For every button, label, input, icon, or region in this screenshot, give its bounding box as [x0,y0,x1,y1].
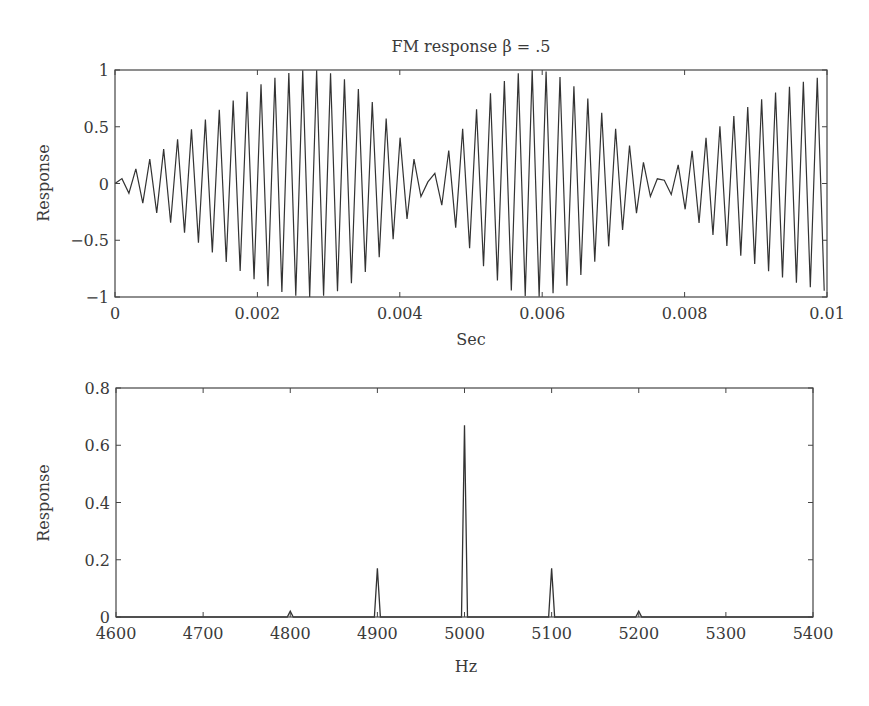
x-tick-label: 0 [110,304,120,323]
x-tick-label: 0.002 [234,304,280,323]
y-tick-label: 0.8 [85,379,110,398]
spectrum-y-axis: 0.80.60.40.20 [85,379,813,627]
x-tick-label: 0.008 [662,304,708,323]
time-plot-title: FM response β = .5 [392,37,551,56]
time-y-axis: 10.50−0.5−1 [70,61,827,307]
y-tick-label: −0.5 [70,231,109,250]
spectrum-plot: 460047004800490050005100520053005400 0.8… [34,379,833,676]
spectrum-series-line [116,425,813,617]
x-tick-label: 4900 [357,624,398,643]
y-tick-label: 0.2 [85,551,110,570]
time-plot: FM response β = .5 00.0020.0040.0060.008… [34,37,845,349]
time-y-axis-label: Response [34,144,53,222]
x-tick-label: 0.004 [377,304,423,323]
x-tick-label: 0.01 [809,304,845,323]
y-tick-label: 0.6 [85,436,110,455]
x-tick-label: 5000 [444,624,485,643]
spectrum-plot-frame [116,388,813,617]
time-series-line [115,70,824,297]
spectrum-y-axis-label: Response [34,464,53,542]
x-tick-label: 4700 [183,624,224,643]
x-tick-label: 5300 [706,624,747,643]
figure: FM response β = .5 00.0020.0040.0060.008… [0,0,869,706]
time-x-axis: 00.0020.0040.0060.0080.01 [110,70,845,323]
spectrum-x-axis-label: Hz [455,657,477,676]
x-tick-label: 5100 [531,624,572,643]
y-tick-label: 0.5 [84,118,109,137]
y-tick-label: 0 [100,608,110,627]
y-tick-label: 0 [99,175,109,194]
time-x-axis-label: Sec [456,330,485,349]
y-tick-label: 1 [99,61,109,80]
y-tick-label: −1 [85,288,109,307]
x-tick-label: 0.006 [519,304,565,323]
time-plot-frame [115,70,827,297]
x-tick-label: 4800 [270,624,311,643]
x-tick-label: 5400 [793,624,834,643]
x-tick-label: 5200 [618,624,659,643]
y-tick-label: 0.4 [85,494,110,513]
